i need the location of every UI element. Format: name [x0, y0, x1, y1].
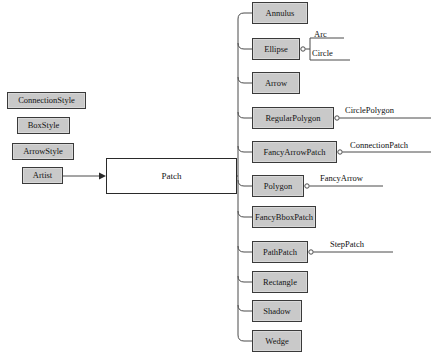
label-arc[interactable]: Arc — [314, 30, 327, 39]
node-fancyarrowpatch[interactable]: FancyArrowPatch — [252, 141, 337, 163]
edge-to-polygon — [238, 180, 252, 186]
edge-to-pathpatch — [238, 246, 252, 252]
edge-to-ellipse — [238, 43, 252, 49]
connector-dot-fancyarrowpatch — [338, 150, 342, 154]
edge-to-fancyarrowpatch — [238, 146, 252, 152]
node-artist[interactable]: Artist — [22, 167, 63, 184]
connector-dot-polygon — [305, 184, 309, 188]
node-polygon[interactable]: Polygon — [252, 175, 304, 197]
edge-to-annulus — [238, 13, 252, 19]
node-regularpolygon[interactable]: RegularPolygon — [252, 107, 334, 129]
connector-dot-pathpatch — [309, 250, 313, 254]
node-fancybboxpatch[interactable]: FancyBboxPatch — [252, 206, 316, 228]
node-arrow[interactable]: Arrow — [252, 72, 300, 94]
edge-to-regularpolygon — [238, 112, 252, 118]
edge-to-wedge — [238, 335, 252, 341]
edge-to-fancybboxpatch — [238, 211, 252, 217]
label-fancyarrow[interactable]: FancyArrow — [320, 174, 363, 183]
label-circlepolygon[interactable]: CirclePolygon — [345, 106, 394, 115]
connector-dot-ellipse — [301, 47, 305, 51]
edge-to-rectangle — [238, 276, 252, 282]
node-boxstyle[interactable]: BoxStyle — [17, 117, 70, 134]
node-arrowstyle[interactable]: ArrowStyle — [12, 143, 74, 160]
node-patch[interactable]: Patch — [106, 158, 237, 194]
node-shadow[interactable]: Shadow — [252, 300, 302, 322]
edge-to-arrow — [238, 77, 252, 83]
class-diagram-canvas: ConnectionStyle BoxStyle ArrowStyle Arti… — [0, 0, 431, 359]
node-annulus[interactable]: Annulus — [252, 2, 308, 24]
node-wedge[interactable]: Wedge — [252, 330, 302, 352]
node-pathpatch[interactable]: PathPatch — [252, 241, 308, 263]
edge-to-shadow — [238, 305, 252, 311]
label-steppatch[interactable]: StepPatch — [330, 240, 364, 249]
connector-dot-regularpolygon — [335, 116, 339, 120]
label-circle[interactable]: Circle — [312, 49, 333, 58]
node-ellipse[interactable]: Ellipse — [252, 38, 300, 60]
label-connectionpatch[interactable]: ConnectionPatch — [350, 141, 408, 150]
arrowhead-patch — [99, 173, 106, 180]
node-connectionstyle[interactable]: ConnectionStyle — [7, 92, 86, 109]
node-rectangle[interactable]: Rectangle — [252, 271, 308, 293]
